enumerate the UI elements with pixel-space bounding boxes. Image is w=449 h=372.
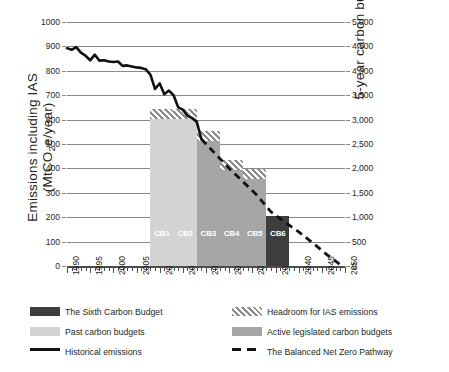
- x-tick-mark: [67, 267, 68, 273]
- x-tick-label: 2040: [303, 256, 313, 275]
- bar-cb6: [266, 216, 289, 266]
- bar-cb1: [150, 119, 173, 266]
- y-tick-label-right: 5,000: [352, 17, 392, 27]
- y-tick-mark-right: [346, 95, 350, 96]
- gridline: [67, 71, 345, 72]
- x-tick-mark: [113, 267, 114, 273]
- x-tick-mark: [271, 267, 272, 271]
- bar-cb5: [243, 179, 266, 266]
- x-tick-mark: [132, 267, 133, 271]
- bar-label-cb3: CB3: [197, 229, 220, 238]
- y-tick-label-right: 3,000: [352, 115, 392, 125]
- y-tick-mark-left: [62, 71, 66, 72]
- x-tick-mark: [155, 267, 156, 271]
- y-tick-label-left: 600: [26, 115, 60, 125]
- y-tick-mark-right: [346, 46, 350, 47]
- bar-label-cb6: CB6: [266, 229, 289, 238]
- bar-headroom-cb2: [174, 109, 197, 119]
- bar-label-cb1: CB1: [150, 229, 173, 238]
- x-tick-mark: [225, 267, 226, 271]
- x-tick-mark: [160, 267, 161, 273]
- x-tick-mark: [81, 267, 82, 271]
- y-tick-mark-left: [62, 168, 66, 169]
- x-tick-label: 1990: [71, 256, 81, 275]
- bar-cb4: [220, 170, 243, 266]
- y-tick-mark-left: [62, 266, 66, 267]
- legend-swatch-solid: [232, 327, 262, 336]
- y-tick-label-left: 0: [26, 261, 60, 271]
- gridline: [67, 95, 345, 96]
- x-tick-mark: [299, 267, 300, 273]
- y-tick-label-left: 900: [26, 41, 60, 51]
- x-tick-mark: [345, 267, 346, 273]
- x-tick-mark: [322, 267, 323, 273]
- y-tick-label-left: 200: [26, 212, 60, 222]
- legend-item: Active legislated carbon budgets: [232, 326, 392, 337]
- y-tick-mark-right: [346, 71, 350, 72]
- y-tick-label-left: 1000: [26, 17, 60, 27]
- x-tick-mark: [248, 267, 249, 271]
- x-tick-mark: [313, 267, 314, 271]
- gridline: [67, 46, 345, 47]
- y-tick-mark-right: [346, 217, 350, 218]
- x-tick-label: 1995: [94, 256, 104, 275]
- bar-label-cb4: CB4: [220, 229, 243, 238]
- bar-cb3: [197, 141, 220, 266]
- y-tick-label-left: 700: [26, 90, 60, 100]
- x-tick-label: 2050: [349, 256, 359, 275]
- legend-item: The Sixth Carbon Budget: [30, 306, 163, 317]
- legend-label: Past carbon budgets: [65, 327, 145, 337]
- y-tick-mark-left: [62, 95, 66, 96]
- x-tick-label: 2045: [326, 256, 336, 275]
- y-tick-mark-left: [62, 217, 66, 218]
- y-tick-label-left: 800: [26, 66, 60, 76]
- bar-label-cb2: CB2: [174, 229, 197, 238]
- x-tick-mark: [340, 267, 341, 271]
- x-tick-mark: [197, 267, 198, 271]
- legend-swatch-solid: [30, 327, 60, 336]
- legend-swatch-solid: [30, 307, 60, 316]
- x-tick-label: 2005: [141, 256, 151, 275]
- y-tick-label-left: 400: [26, 163, 60, 173]
- y-tick-mark-left: [62, 46, 66, 47]
- y-tick-label-right: 4,500: [352, 41, 392, 51]
- y-tick-mark-left: [62, 120, 66, 121]
- legend-item: Past carbon budgets: [30, 326, 145, 337]
- x-tick-mark: [90, 267, 91, 273]
- y-tick-mark-right: [346, 22, 350, 23]
- x-tick-mark: [276, 267, 277, 273]
- legend-label: The Balanced Net Zero Pathway: [267, 347, 393, 357]
- y-tick-label-right: 1,000: [352, 212, 392, 222]
- bar-headroom-cb5: [243, 169, 266, 179]
- x-tick-mark: [266, 267, 267, 271]
- chart-figure: Emissions including IAS (MtCO2e/year) 5-…: [0, 0, 449, 372]
- gridline: [67, 120, 345, 121]
- x-tick-mark: [317, 267, 318, 271]
- gridline: [67, 22, 345, 23]
- legend-label: Active legislated carbon budgets: [267, 327, 392, 337]
- y-tick-mark-left: [62, 144, 66, 145]
- x-tick-mark: [229, 267, 230, 273]
- x-tick-mark: [183, 267, 184, 273]
- x-tick-mark: [220, 267, 221, 271]
- legend-swatch-line-dashed: [232, 348, 262, 351]
- x-tick-mark: [137, 267, 138, 273]
- x-tick-mark: [294, 267, 295, 271]
- y-tick-label-right: 2,500: [352, 139, 392, 149]
- y-tick-label-right: 4,000: [352, 66, 392, 76]
- x-tick-mark: [174, 267, 175, 271]
- y-tick-label-left: 100: [26, 237, 60, 247]
- y-tick-label-right: 1,500: [352, 188, 392, 198]
- y-tick-mark-right: [346, 120, 350, 121]
- legend-item: Headroom for IAS emissions: [232, 306, 378, 317]
- x-tick-mark: [201, 267, 202, 271]
- bar-headroom-cb3: [197, 131, 220, 141]
- legend-label: Headroom for IAS emissions: [267, 307, 378, 317]
- x-tick-mark: [104, 267, 105, 271]
- x-tick-mark: [86, 267, 87, 271]
- x-tick-mark: [178, 267, 179, 271]
- y-tick-mark-left: [62, 193, 66, 194]
- legend-label: The Sixth Carbon Budget: [65, 307, 163, 317]
- bar-headroom-cb1: [150, 109, 173, 119]
- x-tick-mark: [206, 267, 207, 273]
